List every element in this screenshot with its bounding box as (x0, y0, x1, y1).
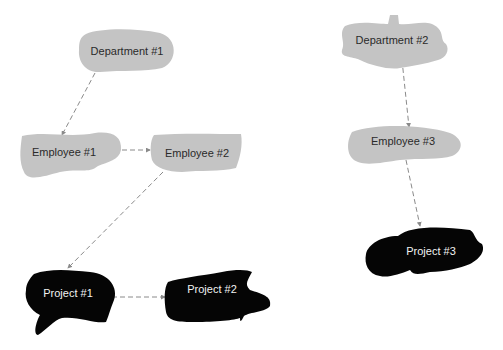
node-label: Employee #2 (165, 147, 229, 159)
node-project-3[interactable]: Project #3 (366, 228, 484, 277)
node-department-1[interactable]: Department #1 (79, 29, 174, 72)
edge-employee3-project3 (406, 160, 420, 226)
node-label: Project #3 (406, 245, 456, 257)
node-project-2[interactable]: Project #2 (165, 270, 271, 322)
node-employee-1[interactable]: Employee #1 (20, 133, 121, 178)
node-department-2[interactable]: Department #2 (342, 15, 448, 69)
node-label: Department #1 (91, 45, 164, 57)
blob-shape (26, 270, 115, 335)
node-label: Project #2 (187, 283, 237, 295)
node-employee-2[interactable]: Employee #2 (151, 134, 242, 172)
edge-department1-employee1 (62, 73, 95, 135)
node-project-1[interactable]: Project #1 (26, 270, 115, 335)
node-label: Employee #1 (32, 146, 96, 158)
node-label: Project #1 (43, 287, 93, 299)
blob-shape (165, 270, 271, 322)
edge-employee2-project1 (68, 172, 163, 268)
node-label: Department #2 (356, 34, 429, 46)
node-label: Employee #3 (371, 135, 435, 147)
edge-department2-employee3 (402, 60, 409, 127)
diagram-canvas: Department #1 Employee #1 Employee #2 Pr… (0, 0, 503, 350)
node-employee-3[interactable]: Employee #3 (348, 126, 461, 164)
